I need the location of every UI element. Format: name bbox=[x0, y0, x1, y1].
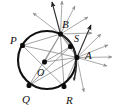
point-label-a: A bbox=[84, 49, 92, 61]
geometry-diagram: PBSAOQR bbox=[0, 0, 115, 111]
chord-R-B bbox=[61, 34, 65, 87]
geometry-figure-svg: PBSAOQR bbox=[0, 0, 115, 111]
point-label-b: B bbox=[62, 18, 69, 30]
point-label-o: O bbox=[37, 67, 44, 78]
point-label-s: S bbox=[74, 33, 79, 44]
vertex-dot-r bbox=[62, 84, 67, 89]
vertex-dot-b bbox=[58, 32, 63, 37]
chord-O-A bbox=[45, 58, 78, 63]
vertex-dot-p bbox=[20, 43, 25, 48]
vertex-dot-q bbox=[27, 83, 32, 88]
vertex-dot-a bbox=[75, 55, 80, 60]
ray-A-5 bbox=[77, 58, 107, 67]
vertices-layer bbox=[20, 32, 79, 89]
point-label-q: Q bbox=[22, 93, 30, 105]
chord-P-R bbox=[23, 46, 65, 87]
ray-B-1 bbox=[52, 2, 61, 34]
point-label-r: R bbox=[65, 94, 73, 106]
vertex-dot-s bbox=[68, 44, 73, 49]
vertex-dot-o bbox=[42, 60, 47, 65]
ray-A-7 bbox=[77, 58, 84, 93]
ray-A-4 bbox=[77, 57, 112, 58]
point-label-p: P bbox=[9, 34, 17, 46]
